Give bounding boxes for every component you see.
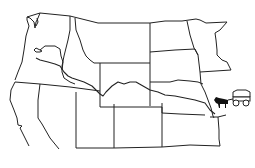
- western-us-map: [0, 0, 255, 168]
- ne-co-border: [140, 107, 162, 113]
- id-mt-border: [75, 18, 100, 63]
- ks-mo-border: [218, 117, 220, 146]
- nd-sd-border: [150, 49, 198, 55]
- ne-ks-border: [162, 113, 205, 115]
- mn-nd-border: [187, 21, 201, 84]
- covered-wagon-icon: [214, 90, 250, 108]
- ca-nv-border: [38, 84, 59, 149]
- wagon-wheel-front: [233, 100, 239, 106]
- wagon-wheel-rear: [243, 100, 249, 106]
- mt-wy-border: [100, 63, 140, 107]
- wagon-canopy: [233, 90, 250, 97]
- yoke-line: [228, 99, 233, 100]
- missouri-river-east: [201, 84, 214, 118]
- washington-coast: [15, 13, 40, 80]
- california-coast: [10, 82, 29, 146]
- ks-south-border: [162, 145, 220, 147]
- sd-ne-border: [150, 80, 203, 84]
- state-borders: [10, 13, 231, 149]
- co-south-border: [114, 147, 162, 148]
- ox-icon: [214, 97, 228, 108]
- minnesota-east-border: [200, 22, 231, 72]
- northern-border: [27, 13, 227, 23]
